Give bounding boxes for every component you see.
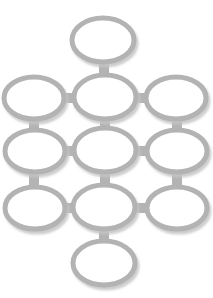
node-bottom[interactable]: [73, 241, 135, 285]
node-r1-left[interactable]: [4, 77, 64, 119]
node-ellipse-r2-right[interactable]: [147, 130, 207, 172]
node-lattice-graph: [0, 0, 213, 298]
node-ellipse-bottom[interactable]: [73, 241, 135, 285]
node-top[interactable]: [72, 18, 134, 62]
node-r2-right[interactable]: [147, 130, 207, 172]
node-r1-right[interactable]: [146, 77, 206, 119]
node-ellipse-r2-left[interactable]: [5, 130, 65, 172]
node-ellipse-top[interactable]: [72, 18, 134, 62]
node-r1-center[interactable]: [74, 75, 136, 119]
node-ellipse-r1-center[interactable]: [74, 75, 136, 119]
node-ellipse-r1-right[interactable]: [146, 77, 206, 119]
node-r2-left[interactable]: [5, 130, 65, 172]
node-ellipse-r3-left[interactable]: [5, 187, 65, 229]
node-ellipse-r3-right[interactable]: [147, 187, 207, 229]
node-r3-right[interactable]: [147, 187, 207, 229]
node-ellipse-r2-center[interactable]: [74, 128, 136, 172]
diagram-canvas: [0, 0, 213, 298]
nodes-layer: [4, 18, 207, 285]
node-r3-left[interactable]: [5, 187, 65, 229]
node-ellipse-r1-left[interactable]: [4, 77, 64, 119]
node-r3-center[interactable]: [73, 185, 135, 229]
node-r2-center[interactable]: [74, 128, 136, 172]
node-ellipse-r3-center[interactable]: [73, 185, 135, 229]
